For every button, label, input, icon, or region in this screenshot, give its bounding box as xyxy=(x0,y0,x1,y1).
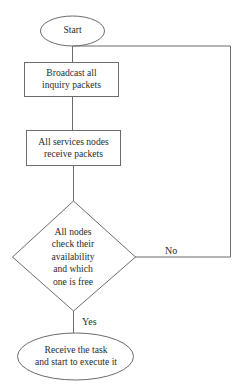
decision-line-2: check their xyxy=(38,238,108,250)
end-node-label: Receive the task and start to execute it xyxy=(18,344,134,369)
start-label: Start xyxy=(63,24,81,35)
edge-no-label: No xyxy=(165,245,177,256)
decision-node-label: All nodes check their availability and w… xyxy=(38,226,108,288)
receive-packets-line-1: All services nodes xyxy=(26,136,121,148)
broadcast-node-label: Broadcast all inquiry packets xyxy=(24,67,119,92)
start-node-label: Start xyxy=(40,24,105,36)
decision-line-5: one is free xyxy=(38,276,108,288)
flowchart-canvas xyxy=(0,0,241,391)
broadcast-line-2: inquiry packets xyxy=(24,79,119,91)
edge-yes-label: Yes xyxy=(82,316,97,327)
broadcast-line-1: Broadcast all xyxy=(24,67,119,79)
decision-line-4: and which xyxy=(38,263,108,275)
receive-packets-node-label: All services nodes receive packets xyxy=(26,136,121,161)
decision-line-1: All nodes xyxy=(38,226,108,238)
end-line-2: and start to execute it xyxy=(18,356,134,368)
decision-line-3: availability xyxy=(38,251,108,263)
end-line-1: Receive the task xyxy=(18,344,134,356)
receive-packets-line-2: receive packets xyxy=(26,148,121,160)
